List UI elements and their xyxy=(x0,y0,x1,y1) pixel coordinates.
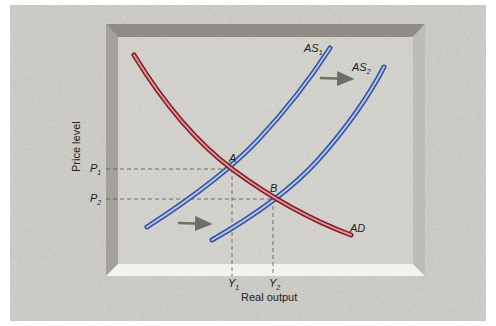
recessed-panel xyxy=(106,24,425,276)
rightward-shift-arrow-top xyxy=(320,78,352,79)
diagram: AS1 AS2 AD A B P1 P2 Y1 Y2 Real output P… xyxy=(0,0,496,326)
x-axis-label: Real output xyxy=(241,291,297,303)
rightward-shift-arrow-bottom xyxy=(178,223,210,224)
point-a-label: A xyxy=(228,152,236,164)
ad-label: AD xyxy=(349,222,365,234)
point-b-label: B xyxy=(270,182,277,194)
y-axis-label: Price level xyxy=(70,121,82,172)
